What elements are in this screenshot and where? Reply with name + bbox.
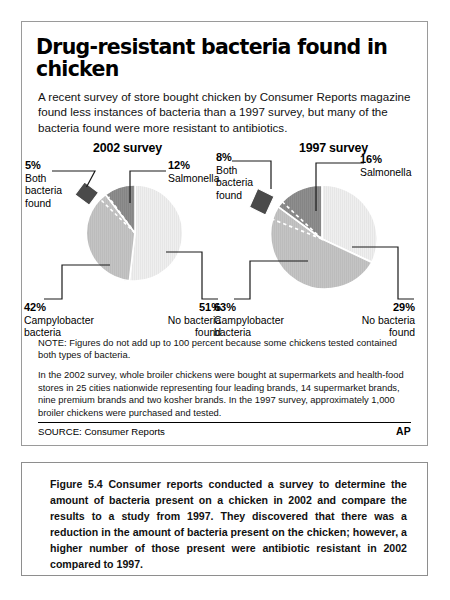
- note-disclaimer: NOTE: Figures do not add up to 100 perce…: [38, 337, 411, 362]
- callout-pct: 5%: [25, 159, 62, 172]
- callout-name: Campylobacterbacteria: [214, 315, 284, 338]
- charts-region: 2002 survey: [22, 141, 427, 333]
- infographic-frame: Drug-resistant bacteria found in chicken…: [21, 21, 428, 446]
- source-bar: SOURCE: Consumer Reports AP: [38, 422, 411, 437]
- callout-name: Bothbacteriafound: [216, 165, 253, 201]
- callout-both-1997: 8% Bothbacteriafound: [216, 151, 253, 203]
- notes-region: NOTE: Figures do not add up to 100 perce…: [38, 337, 411, 420]
- deck-text: A recent survey of store bought chicken …: [38, 89, 411, 135]
- ap-logo: AP: [396, 426, 411, 437]
- callout-name: Campylobacterbacteria: [24, 315, 94, 338]
- callout-pct: 63%: [214, 301, 284, 314]
- source-text: SOURCE: Consumer Reports: [38, 426, 165, 437]
- callout-pct: 16%: [360, 153, 411, 166]
- pie-slice-both-bacteria-1997: [250, 188, 275, 215]
- chart-panel-1997: 1997 survey: [224, 141, 427, 333]
- callout-name: Salmonella: [360, 167, 411, 178]
- note-methodology: In the 2002 survey, whole broiler chicke…: [38, 369, 411, 419]
- callout-pct: 12%: [168, 159, 219, 172]
- callout-campylobacter-1997: 63% Campylobacterbacteria: [214, 301, 284, 340]
- figure-number: Figure 5.4: [50, 478, 103, 490]
- page-title: Drug-resistant bacteria found in chicken: [36, 36, 413, 80]
- callout-pct: 29%: [362, 301, 415, 314]
- callout-pct: 8%: [216, 151, 253, 164]
- callout-name: No bacteriafound: [362, 315, 415, 338]
- figure-caption-text: Figure 5.4 Consumer reports conducted a …: [50, 476, 407, 573]
- pie-slice-no-bacteria-2002: [129, 185, 182, 281]
- chart-panel-2002: 2002 survey: [22, 141, 225, 333]
- callout-name: Salmonella: [168, 173, 219, 184]
- callout-pct: 42%: [24, 301, 94, 314]
- callout-name: Bothbacteriafound: [25, 173, 62, 209]
- callout-both-2002: 5% Bothbacteriafound: [25, 159, 62, 211]
- callout-salmonella-2002: 12% Salmonella: [168, 159, 219, 186]
- callout-no-bacteria-1997: 29% No bacteriafound: [362, 301, 415, 340]
- figure-caption-box: Figure 5.4 Consumer reports conducted a …: [21, 462, 428, 576]
- figure-caption-body: Consumer reports conducted a survey to d…: [50, 478, 407, 570]
- callout-campylobacter-2002: 42% Campylobacterbacteria: [24, 301, 94, 340]
- callout-salmonella-1997: 16% Salmonella: [360, 153, 411, 180]
- leader-line-campylobacter-2002: [44, 265, 110, 299]
